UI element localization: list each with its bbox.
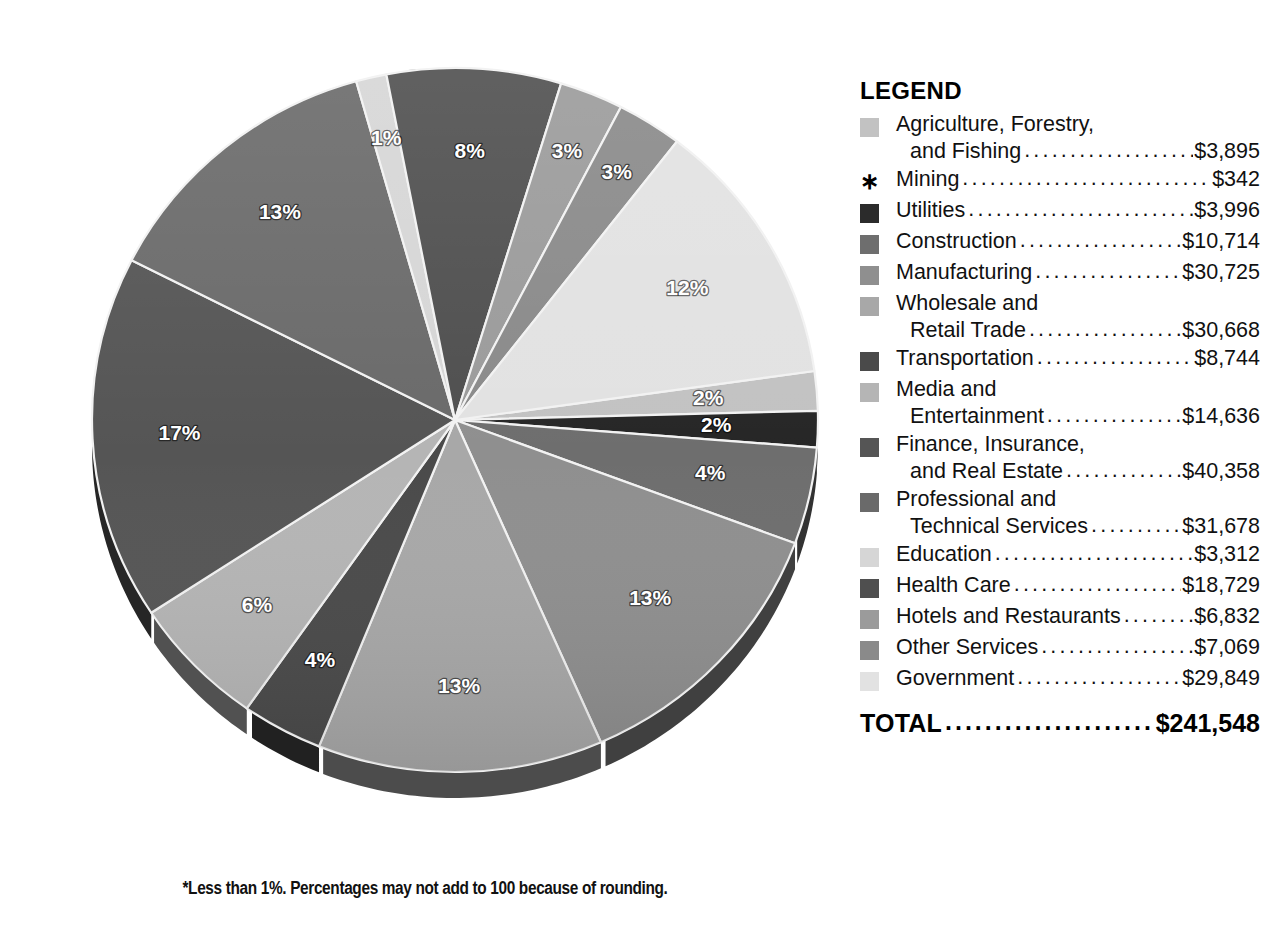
pie-chart-area: 2%2%4%13%13%4%6%17%13%1%8%3%3%12% *Less …: [0, 0, 850, 930]
legend-swatch-cell: [860, 634, 896, 660]
pie-label-manufacturing: 13%: [629, 586, 671, 609]
pie-label-media-entertainment: 6%: [242, 593, 273, 616]
legend-item-label-cont: Entertainment: [910, 403, 1044, 430]
legend-entry: Education...............................…: [896, 541, 1260, 568]
pie-label-other-services: 3%: [602, 160, 633, 183]
legend-item-label: Finance, Insurance,: [896, 431, 1085, 458]
legend-entry: Hotels and Restaurants..................…: [896, 603, 1260, 630]
pie-label-government: 12%: [666, 276, 708, 299]
legend-color-swatch: [860, 383, 879, 402]
legend-item-7: Transportation..........................…: [860, 345, 1260, 375]
legend-item-amount: $31,678: [1182, 513, 1260, 540]
legend-item-amount: $30,668: [1182, 317, 1260, 344]
legend-item-amount: $3,312: [1194, 541, 1260, 568]
legend-leader-dots: ........................................…: [1066, 457, 1181, 484]
legend-item-13: Hotels and Restaurants..................…: [860, 603, 1260, 633]
legend-item-label-cont: Technical Services: [910, 513, 1088, 540]
legend-leader-dots: ........................................…: [995, 540, 1194, 567]
legend-panel: LEGEND Agriculture, Forestry,and Fishing…: [860, 78, 1260, 930]
legend-leader-dots: ........................................…: [1091, 512, 1181, 539]
pie-label-transportation: 4%: [305, 648, 336, 671]
legend-leader-dots: ........................................…: [1020, 227, 1182, 254]
legend-swatch-cell: [860, 228, 896, 254]
legend-list: Agriculture, Forestry,and Fishing.......…: [860, 111, 1260, 695]
legend-item-12: Health Care.............................…: [860, 572, 1260, 602]
legend-total-label: TOTAL: [860, 709, 942, 738]
legend-swatch-cell: [860, 603, 896, 629]
legend-item-amount: $18,729: [1182, 572, 1260, 599]
legend-item-amount: $14,636: [1182, 403, 1260, 430]
legend-leader-dots: ........................................…: [1047, 402, 1181, 429]
legend-item-label: Transportation: [896, 345, 1034, 372]
legend-entry: Utilities...............................…: [896, 197, 1260, 224]
pie-label-finance-insurance-real-estate: 17%: [158, 421, 200, 444]
legend-entry: Government..............................…: [896, 665, 1260, 692]
legend-item-amount: $6,832: [1194, 603, 1260, 630]
legend-swatch-cell: [860, 376, 896, 402]
legend-leader-dots: ........................................…: [1029, 316, 1181, 343]
legend-color-swatch: [860, 352, 879, 371]
legend-item-label: Other Services: [896, 634, 1038, 661]
legend-item-9: Finance, Insurance,and Real Estate......…: [860, 431, 1260, 485]
legend-swatch-cell: [860, 259, 896, 285]
legend-item-amount: $3,895: [1194, 138, 1260, 165]
legend-item-amount: $29,849: [1182, 665, 1260, 692]
legend-swatch-cell: [860, 111, 896, 137]
legend-item-5: Manufacturing...........................…: [860, 259, 1260, 289]
legend-color-swatch: [860, 493, 879, 512]
legend-entry: Mining..................................…: [896, 166, 1260, 193]
legend-color-swatch: [860, 118, 879, 137]
legend-item-amount: $7,069: [1194, 634, 1260, 661]
legend-color-swatch: [860, 235, 879, 254]
legend-leader-dots: ........................................…: [1041, 633, 1193, 660]
legend-item-label: Mining: [896, 166, 959, 193]
legend-item-amount: $8,744: [1194, 345, 1260, 372]
legend-item-amount: $342: [1212, 166, 1260, 193]
legend-item-label: Government: [896, 665, 1014, 692]
pie-label-construction: 4%: [695, 461, 726, 484]
legend-color-swatch: [860, 672, 879, 691]
legend-leader-dots: ........................................…: [1014, 571, 1182, 598]
pie-label-professional-technical-services: 13%: [259, 200, 301, 223]
legend-swatch-cell: [860, 290, 896, 316]
legend-item-2: ∗Mining.................................…: [860, 166, 1260, 196]
legend-item-label-cont: Retail Trade: [910, 317, 1026, 344]
legend-item-label: Construction: [896, 228, 1017, 255]
legend-item-8: Media andEntertainment..................…: [860, 376, 1260, 430]
legend-entry: Agriculture, Forestry,and Fishing.......…: [896, 111, 1260, 165]
legend-leader-dots: ........................................…: [1035, 258, 1181, 285]
legend-item-14: Other Services..........................…: [860, 634, 1260, 664]
legend-color-swatch: [860, 641, 879, 660]
legend-item-3: Utilities...............................…: [860, 197, 1260, 227]
legend-entry: Construction............................…: [896, 228, 1260, 255]
legend-item-label: Agriculture, Forestry,: [896, 111, 1094, 138]
legend-item-amount: $30,725: [1182, 259, 1260, 286]
pie-label-hotels-restaurants: 3%: [552, 139, 583, 162]
legend-item-11: Education...............................…: [860, 541, 1260, 571]
pie-label-agriculture-forestry-fishing: 2%: [693, 386, 724, 409]
legend-swatch-cell: [860, 541, 896, 567]
legend-leader-dots: ........................................…: [1024, 137, 1193, 164]
legend-item-4: Construction............................…: [860, 228, 1260, 258]
legend-swatch-cell: ∗: [860, 166, 896, 188]
pie-label-utilities: 2%: [701, 413, 732, 436]
legend-color-swatch: [860, 548, 879, 567]
legend-item-amount: $3,996: [1194, 197, 1260, 224]
legend-item-label: Hotels and Restaurants: [896, 603, 1121, 630]
legend-item-amount: $10,714: [1182, 228, 1260, 255]
pie-label-education: 1%: [371, 126, 402, 149]
legend-item-label: Media and: [896, 376, 996, 403]
legend-entry: Finance, Insurance,and Real Estate......…: [896, 431, 1260, 485]
pie-label-health-care: 8%: [455, 139, 486, 162]
legend-color-swatch: [860, 297, 879, 316]
legend-leader-dots: ........................................…: [968, 196, 1193, 223]
legend-color-swatch: [860, 579, 879, 598]
legend-swatch-cell: [860, 345, 896, 371]
legend-swatch-cell: [860, 665, 896, 691]
legend-color-swatch: [860, 266, 879, 285]
legend-entry: Wholesale andRetail Trade...............…: [896, 290, 1260, 344]
legend-item-6: Wholesale andRetail Trade...............…: [860, 290, 1260, 344]
legend-entry: Media andEntertainment..................…: [896, 376, 1260, 430]
legend-item-label-cont: and Fishing: [910, 138, 1021, 165]
legend-entry: Manufacturing...........................…: [896, 259, 1260, 286]
